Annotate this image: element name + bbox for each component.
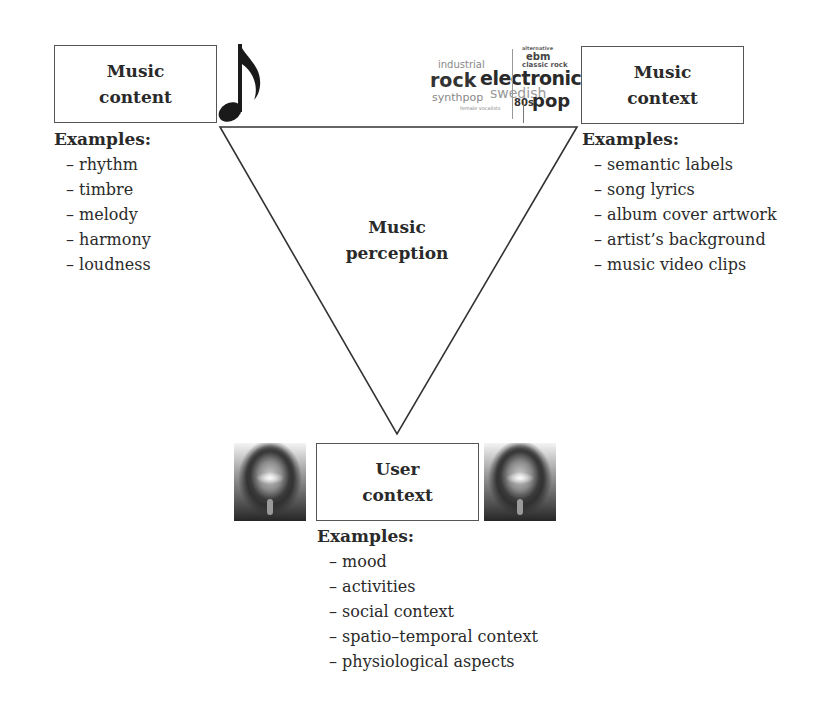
examples-header: Examples: xyxy=(317,524,538,549)
music-perception-label: Music perception xyxy=(327,214,467,266)
examples-header: Examples: xyxy=(582,127,777,152)
example-item: album cover artwork xyxy=(594,202,777,227)
example-item: spatio–temporal context xyxy=(329,624,538,649)
user-head-icon xyxy=(484,443,556,521)
user-context-examples: Examples: mood activities social context… xyxy=(317,524,538,674)
center-label-line1: Music xyxy=(327,214,467,240)
example-item: rhythm xyxy=(66,152,151,177)
music-content-title-line2: content xyxy=(99,84,172,110)
example-item: mood xyxy=(329,549,538,574)
example-item: loudness xyxy=(66,252,151,277)
user-head-icon xyxy=(234,443,306,521)
user-context-title-line1: User xyxy=(375,456,419,482)
example-item: harmony xyxy=(66,227,151,252)
music-content-examples: Examples: rhythm timbre melody harmony l… xyxy=(54,127,151,277)
example-item: song lyrics xyxy=(594,177,777,202)
example-item: social context xyxy=(329,599,538,624)
tag-cloud-icon: alternative ebm industrial classic rock … xyxy=(430,45,580,125)
tag: rock xyxy=(430,69,476,91)
example-item: artist’s background xyxy=(594,227,777,252)
user-context-box: User context xyxy=(316,443,479,521)
user-context-title-line2: context xyxy=(362,482,433,508)
example-item: timbre xyxy=(66,177,151,202)
example-item: activities xyxy=(329,574,538,599)
example-item: music video clips xyxy=(594,252,777,277)
center-label-line2: perception xyxy=(327,240,467,266)
example-item: melody xyxy=(66,202,151,227)
tag: pop xyxy=(532,90,570,111)
music-content-box: Music content xyxy=(54,45,217,123)
music-context-box: Music context xyxy=(581,46,744,124)
examples-header: Examples: xyxy=(54,127,151,152)
music-content-title-line1: Music xyxy=(107,58,165,84)
tag: female vocalists xyxy=(460,105,501,111)
music-context-title-line1: Music xyxy=(634,59,692,85)
example-item: semantic labels xyxy=(594,152,777,177)
example-item: physiological aspects xyxy=(329,649,538,674)
tag: synthpop xyxy=(432,91,483,104)
music-context-title-line2: context xyxy=(627,85,698,111)
music-note-icon xyxy=(216,40,266,126)
music-context-examples: Examples: semantic labels song lyrics al… xyxy=(582,127,777,277)
